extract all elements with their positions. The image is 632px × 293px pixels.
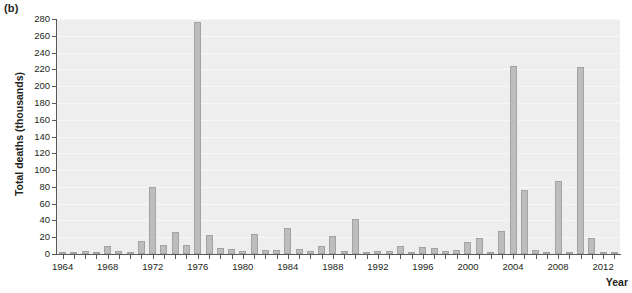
x-axis-tick: [558, 255, 559, 259]
x-axis-tick-label: 1984: [268, 261, 308, 272]
x-axis-tick: [175, 255, 176, 259]
y-axis-tick-label: 280: [12, 14, 50, 23]
y-axis-tick-label: 260: [12, 31, 50, 40]
y-axis-tick-label: 60: [12, 199, 50, 208]
y-axis-tick-label: 20: [12, 232, 50, 241]
bar: [476, 238, 483, 254]
x-axis-tick: [513, 255, 514, 259]
y-axis-tick: [52, 86, 56, 87]
bar: [329, 236, 336, 254]
x-axis-tick-label: 2000: [448, 261, 488, 272]
x-axis-tick: [547, 255, 548, 259]
bar: [419, 247, 426, 254]
bar: [149, 187, 156, 254]
x-axis-tick: [153, 255, 154, 259]
gridline: [57, 69, 620, 70]
x-axis-tick: [63, 255, 64, 259]
x-axis-tick: [277, 255, 278, 259]
gridline: [57, 153, 620, 154]
x-axis-tick: [524, 255, 525, 259]
y-axis-tick: [52, 254, 56, 255]
bar: [318, 246, 325, 254]
x-axis-tick-label: 1980: [223, 261, 263, 272]
bar: [588, 238, 595, 254]
y-axis-tick-label: 180: [12, 98, 50, 107]
y-axis-tick-label: 80: [12, 182, 50, 191]
bar: [521, 190, 528, 254]
x-axis-tick: [141, 255, 142, 259]
x-axis-tick: [603, 255, 604, 259]
x-axis-tick: [569, 255, 570, 259]
bar: [577, 67, 584, 254]
x-axis-tick-label: 2004: [493, 261, 533, 272]
x-axis-tick: [344, 255, 345, 259]
x-axis-tick-label: 1964: [43, 261, 83, 272]
plot-area: [57, 19, 620, 254]
x-axis-tick: [164, 255, 165, 259]
x-axis-tick: [254, 255, 255, 259]
y-axis-tick: [52, 69, 56, 70]
y-axis-tick-label: 40: [12, 215, 50, 224]
y-axis-tick: [52, 103, 56, 104]
gridline: [57, 103, 620, 104]
x-axis-tick: [232, 255, 233, 259]
y-axis-tick-label: 120: [12, 148, 50, 157]
x-axis-tick-label: 1992: [358, 261, 398, 272]
bar: [352, 219, 359, 254]
x-axis-tick: [209, 255, 210, 259]
x-axis-tick: [108, 255, 109, 259]
bar: [284, 228, 291, 254]
y-axis-line: [56, 19, 57, 255]
x-axis-tick: [265, 255, 266, 259]
x-axis-tick: [119, 255, 120, 259]
x-axis-tick: [502, 255, 503, 259]
x-axis-tick: [536, 255, 537, 259]
gridline: [57, 237, 620, 238]
x-axis-tick: [198, 255, 199, 259]
bar: [464, 242, 471, 254]
x-axis-tick: [288, 255, 289, 259]
gridline: [57, 19, 620, 20]
y-axis-tick: [52, 137, 56, 138]
bar: [397, 246, 404, 254]
x-axis-tick: [400, 255, 401, 259]
x-axis-tick: [299, 255, 300, 259]
x-axis-tick-label: 1976: [178, 261, 218, 272]
x-axis-tick-label: 1996: [403, 261, 443, 272]
y-axis-tick: [52, 153, 56, 154]
x-axis-tick: [322, 255, 323, 259]
bar: [160, 245, 167, 254]
gridline: [57, 36, 620, 37]
x-axis-tick: [355, 255, 356, 259]
x-axis-tick: [310, 255, 311, 259]
x-axis-tick: [581, 255, 582, 259]
x-axis-tick-label: 2012: [583, 261, 623, 272]
bar: [104, 246, 111, 254]
y-axis-tick-label: 200: [12, 81, 50, 90]
y-axis-tick: [52, 53, 56, 54]
bar: [510, 66, 517, 254]
y-axis-tick-label: 100: [12, 165, 50, 174]
x-axis-tick: [96, 255, 97, 259]
x-axis-tick-label: 1972: [133, 261, 173, 272]
y-axis-tick-label: 140: [12, 132, 50, 141]
x-axis-tick-label: 1968: [88, 261, 128, 272]
x-axis-tick: [85, 255, 86, 259]
y-axis-tick: [52, 36, 56, 37]
x-axis-tick: [243, 255, 244, 259]
y-axis-tick: [52, 237, 56, 238]
x-axis-tick: [220, 255, 221, 259]
y-axis-tick: [52, 19, 56, 20]
y-axis-tick: [52, 204, 56, 205]
y-axis-tick: [52, 220, 56, 221]
x-axis-tick: [445, 255, 446, 259]
y-axis-tick-label: 220: [12, 64, 50, 73]
bar: [172, 232, 179, 254]
bar: [183, 245, 190, 254]
bar: [498, 231, 505, 254]
gridline: [57, 204, 620, 205]
y-axis-tick-label: 160: [12, 115, 50, 124]
y-axis-tick-label: 0: [12, 249, 50, 258]
bar: [194, 22, 201, 254]
x-axis-tick: [457, 255, 458, 259]
